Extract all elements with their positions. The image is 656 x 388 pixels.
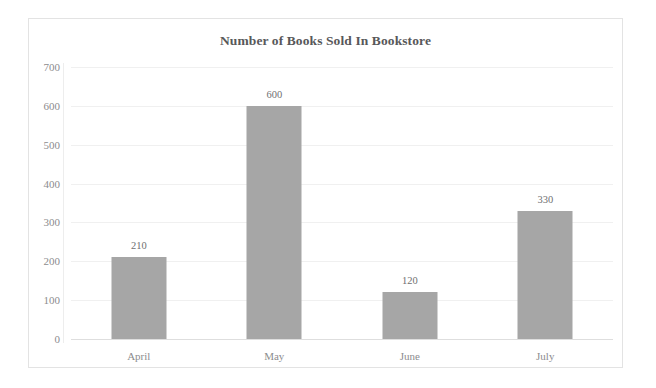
bar-group: 330July	[478, 67, 614, 339]
y-axis-tick-label: 700	[44, 61, 61, 73]
bar-value-label: 120	[402, 275, 418, 286]
y-axis-line	[63, 63, 64, 343]
x-axis-category-label: June	[400, 350, 420, 362]
bar-value-label: 330	[537, 194, 553, 205]
plot-area: 0100200300400500600700 210April600May120…	[71, 67, 613, 339]
x-axis-category-label: May	[264, 350, 284, 362]
y-axis-tick-label: 600	[44, 100, 61, 112]
y-axis-tick-label: 0	[55, 333, 61, 345]
x-axis-category-label: July	[536, 350, 554, 362]
y-axis-tick-label: 300	[44, 216, 61, 228]
bar[interactable]	[247, 106, 302, 339]
y-axis-tick-label: 100	[44, 294, 61, 306]
x-axis-category-label: April	[127, 350, 150, 362]
bar-group: 210April	[71, 67, 207, 339]
bar[interactable]	[518, 211, 573, 339]
bar[interactable]	[111, 257, 166, 339]
bar-group: 600May	[207, 67, 343, 339]
y-axis-tick-label: 200	[44, 255, 61, 267]
bar-group: 120June	[342, 67, 478, 339]
y-axis-tick-label: 500	[44, 139, 61, 151]
bar-value-label: 210	[131, 240, 147, 251]
bar[interactable]	[382, 292, 437, 339]
chart-title: Number of Books Sold In Bookstore	[29, 33, 622, 49]
gridline	[71, 339, 613, 340]
y-axis-tick-label: 400	[44, 178, 61, 190]
bar-value-label: 600	[266, 89, 282, 100]
chart-container: Number of Books Sold In Bookstore 010020…	[28, 18, 623, 368]
